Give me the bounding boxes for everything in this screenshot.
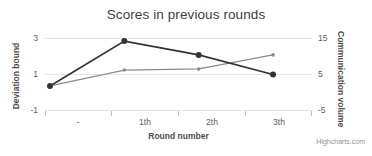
data-point-deviation-0[interactable] [47,83,53,89]
y-left-tick-1: 1 [12,69,38,79]
x-tick-mark-0 [111,111,112,116]
y-left-tick-neg1: -1 [12,105,38,115]
data-point-deviation-3[interactable] [270,72,276,78]
x-tick-label-1: 1th [115,117,175,127]
x-tick-label-3: 3th [249,117,309,127]
data-point-deviation-2[interactable] [196,52,202,58]
chart-title: Scores in previous rounds [0,7,372,22]
series-points-deviation [47,38,276,89]
data-point-communication-2[interactable] [197,67,201,71]
series-points-communication [48,53,275,88]
series-line-communication [50,55,273,86]
x-tick-mark-start [45,111,46,116]
x-axis-title: Round number [45,131,312,141]
y-right-tick-neg5: -5 [318,105,344,115]
y-right-tick-5: 5 [318,69,344,79]
highcharts-chart: Scores in previous rounds Deviation boun… [0,0,372,156]
x-tick-label-2: 2th [182,117,242,127]
plot-area [45,38,312,110]
credits-label: Highcharts.com [316,138,365,145]
x-tick-mark-end [311,111,312,116]
series-plot [45,38,312,110]
data-point-deviation-1[interactable] [121,38,127,44]
x-tick-mark-1 [178,111,179,116]
gridline-bottom [45,110,312,111]
y-left-tick-3: 3 [12,33,38,43]
x-tick-mark-2 [245,111,246,116]
data-point-communication-3[interactable] [271,53,275,57]
y-right-tick-15: 15 [318,33,344,43]
x-tick-label-0: - [48,117,108,127]
data-point-communication-1[interactable] [123,68,127,72]
